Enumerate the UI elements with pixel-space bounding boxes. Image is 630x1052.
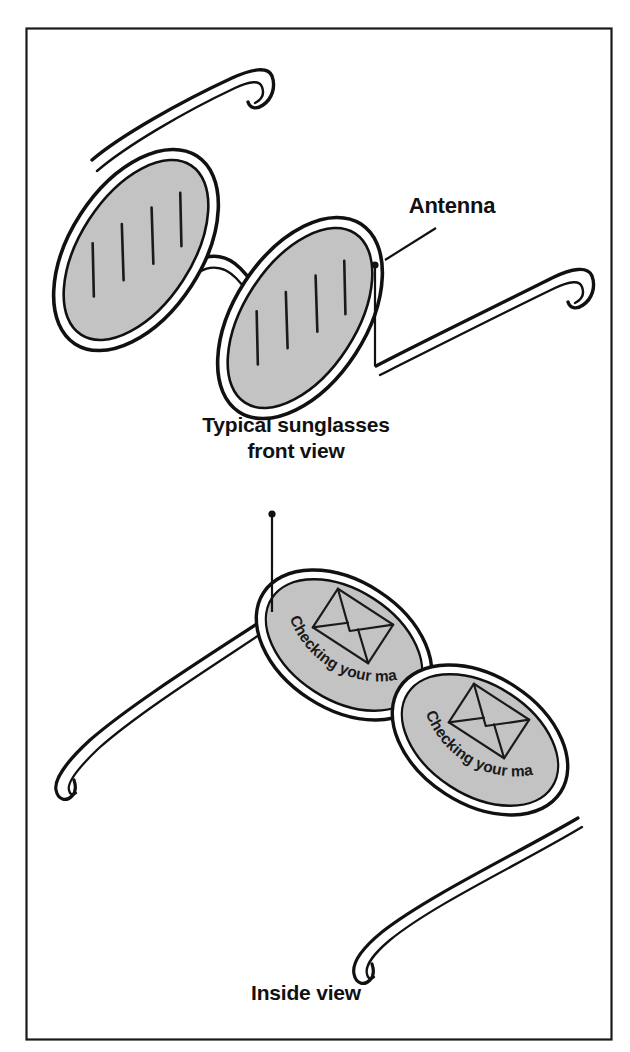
front-view-caption-line-1: Typical sunglasses [202,413,389,436]
sunglasses-diagram: Antenna Typical sunglasses front view [0,0,630,1052]
inside-view-caption: Inside view [251,981,362,1004]
antenna-tip-dot [371,261,378,268]
front-view-caption-line-2: front view [247,439,345,462]
antenna-tip-dot [268,510,275,517]
inside-view-caption-line-1: Inside view [251,981,362,1004]
antenna-label: Antenna [409,193,497,218]
figure-container: Antenna Typical sunglasses front view [0,0,630,1052]
